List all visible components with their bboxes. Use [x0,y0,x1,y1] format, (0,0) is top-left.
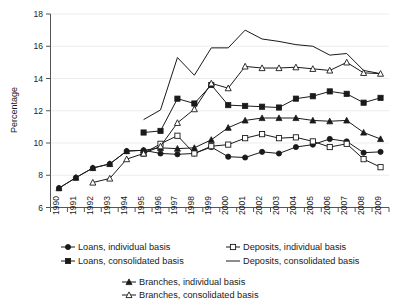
marker-filled-square [293,96,298,101]
y-tick-label: 10 [34,138,44,148]
marker-filled-triangle [361,129,367,135]
y-tick-label: 8 [38,170,43,180]
marker-filled-circle [158,151,163,156]
marker-filled-square [378,95,383,100]
marker-filled-square [158,128,163,133]
x-axis: 1990199119921993199419951996199719981999… [51,196,390,215]
marker-filled-circle [175,152,180,157]
series-0 [56,136,383,190]
chart-legend: Loans, individual basisDeposits, individ… [61,242,360,300]
y-axis-title: Percentage [9,87,19,133]
marker-open-triangle [344,59,350,65]
legend-label: Deposits, consolidated basis [243,256,360,266]
marker-filled-square [65,258,70,263]
marker-open-square [243,136,248,141]
x-tick-label: 1998 [186,196,196,215]
x-tick-label: 1999 [203,196,213,215]
marker-filled-square [344,91,349,96]
x-tick-label: 2001 [237,196,247,215]
legend-item: Loans, individual basis [61,242,171,252]
marker-open-square [209,144,214,149]
marker-open-square [327,144,332,149]
marker-open-square [259,132,264,137]
marker-filled-square [226,103,231,108]
x-tick-label: 2000 [220,196,230,215]
x-tick-label: 1990 [51,196,61,215]
x-tick-label: 1994 [119,196,129,215]
marker-filled-square [276,105,281,110]
x-tick-label: 1996 [153,196,163,215]
marker-filled-circle [65,244,70,249]
marker-filled-square [175,96,180,101]
x-tick-label: 2002 [254,196,264,215]
marker-open-square [344,141,349,146]
marker-open-square [226,142,231,147]
marker-filled-circle [378,149,383,154]
legend-label: Loans, consolidated basis [78,256,184,266]
y-tick-label: 18 [34,9,44,19]
legend-item: Deposits, consolidated basis [226,256,360,266]
marker-filled-triangle [378,136,384,142]
legend-label: Loans, individual basis [78,242,171,252]
x-tick-label: 1997 [169,196,179,215]
marker-filled-triangle [225,125,231,131]
x-tick-label: 1993 [102,196,112,215]
marker-open-square [378,165,383,170]
marker-filled-triangle [208,137,214,143]
y-axis: 681012141618 [34,9,51,213]
x-tick-label: 2008 [356,196,366,215]
marker-filled-circle [327,136,332,141]
x-tick-label: 2003 [271,196,281,215]
legend-label: Branches, consolidated basis [139,290,259,300]
marker-filled-square [259,104,264,109]
y-tick-label: 16 [34,41,44,51]
legend-item: Branches, consolidated basis [122,290,259,300]
marker-filled-circle [361,150,366,155]
legend-item: Deposits, individual basis [226,242,347,252]
x-tick-label: 1991 [68,196,78,215]
line-chart: 681012141618 199019911992199319941995199… [0,0,399,308]
series-line [93,62,381,182]
marker-open-square [293,135,298,140]
marker-filled-circle [259,149,264,154]
marker-open-square [276,136,281,141]
legend-label: Branches, individual basis [139,277,246,287]
legend-item: Loans, consolidated basis [61,256,184,266]
marker-filled-circle [243,155,248,160]
x-tick-label: 2007 [339,196,349,215]
marker-filled-square [243,103,248,108]
marker-open-square [310,139,315,144]
marker-open-square [230,244,235,249]
y-tick-label: 14 [34,74,44,84]
chart-container: 681012141618 199019911992199319941995199… [0,0,399,308]
y-tick-label: 6 [38,203,43,213]
x-tick-label: 2009 [373,196,383,215]
x-tick-label: 2005 [305,196,315,215]
marker-open-square [361,157,366,162]
x-tick-label: 1992 [85,196,95,215]
x-tick-label: 2006 [322,196,332,215]
marker-filled-circle [293,144,298,149]
x-tick-label: 1995 [136,196,146,215]
x-tick-label: 2004 [288,196,298,215]
marker-open-triangle [191,106,197,112]
marker-filled-circle [276,151,281,156]
marker-filled-square [141,130,146,135]
series-1 [141,82,383,135]
marker-filled-square [310,94,315,99]
marker-filled-circle [226,154,231,159]
y-tick-label: 12 [34,106,44,116]
marker-open-square [192,151,197,156]
legend-label: Deposits, individual basis [243,242,347,252]
legend-item: Branches, individual basis [122,277,246,287]
marker-filled-square [327,89,332,94]
marker-open-square [175,133,180,138]
marker-filled-square [361,100,366,105]
series-line [59,118,381,188]
